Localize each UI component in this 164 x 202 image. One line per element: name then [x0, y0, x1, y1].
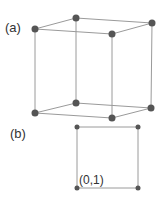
vertex-dot	[32, 110, 39, 117]
vertex-dot	[32, 26, 39, 33]
vertex-dot	[148, 105, 155, 112]
corner-coordinate-label: (0,1)	[79, 173, 104, 187]
edge-line	[35, 29, 112, 34]
edge-line	[76, 103, 151, 108]
vertex-dot	[149, 20, 156, 27]
edge-line	[35, 113, 112, 118]
edge-line	[76, 18, 152, 23]
panel-a-label: (a)	[5, 20, 21, 35]
edge-line	[112, 108, 151, 118]
edge-line	[35, 18, 76, 29]
vertex-dot	[109, 31, 116, 38]
diagram-canvas: (a) (b) (0,1)	[0, 0, 164, 202]
vertex-dot	[75, 125, 80, 130]
edge-line	[35, 103, 76, 113]
edge-line	[151, 23, 152, 108]
panel-b-label: (b)	[10, 126, 26, 141]
vertex-dot	[109, 115, 116, 122]
vertex-dot	[73, 100, 80, 107]
edge-line	[112, 23, 152, 34]
vertex-dot	[136, 125, 141, 130]
cube-panel-a	[32, 15, 156, 122]
vertex-dot	[73, 15, 80, 22]
vertex-dot	[136, 186, 141, 191]
